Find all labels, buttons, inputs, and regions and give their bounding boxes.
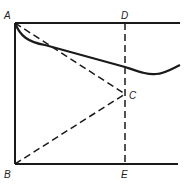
label-C: C (129, 90, 137, 101)
solid-curve (15, 23, 180, 74)
label-D: D (121, 10, 128, 21)
dashed-line-AC (15, 23, 125, 94)
label-A: A (3, 10, 11, 21)
geometry-diagram: A D C B E (0, 0, 184, 187)
dashed-line-BC (15, 94, 125, 164)
label-B: B (4, 169, 11, 180)
label-E: E (121, 169, 128, 180)
